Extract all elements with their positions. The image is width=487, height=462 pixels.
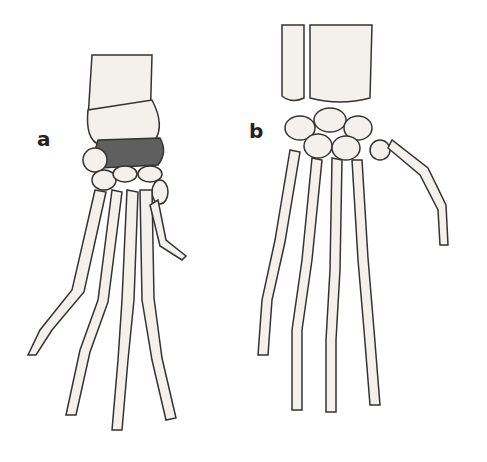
- hand-a-bones: [28, 55, 186, 430]
- hand-b-bones: [258, 25, 448, 412]
- skeleton-illustration: [0, 0, 487, 462]
